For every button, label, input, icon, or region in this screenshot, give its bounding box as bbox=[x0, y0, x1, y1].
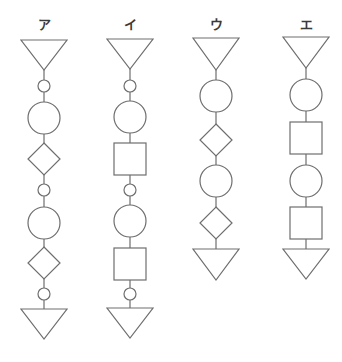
diamond-shape bbox=[28, 143, 60, 175]
small-circle-shape bbox=[38, 288, 50, 300]
square-shape bbox=[114, 143, 146, 175]
triangle-down-shape bbox=[21, 309, 67, 339]
diamond-shape bbox=[200, 207, 232, 239]
flow-diagram-options: ア イ ウ エ bbox=[0, 0, 342, 362]
column-0 bbox=[21, 40, 67, 339]
shape-chains bbox=[0, 0, 342, 362]
large-circle-shape bbox=[290, 165, 322, 197]
column-2 bbox=[193, 38, 239, 280]
square-shape bbox=[290, 122, 322, 154]
small-circle-shape bbox=[124, 80, 136, 92]
large-circle-shape bbox=[28, 102, 60, 134]
triangle-down-shape bbox=[107, 308, 153, 338]
large-circle-shape bbox=[200, 80, 232, 112]
triangle-down-shape bbox=[21, 40, 67, 70]
triangle-down-shape bbox=[283, 249, 329, 279]
small-circle-shape bbox=[124, 184, 136, 196]
diamond-shape bbox=[200, 124, 232, 156]
triangle-down-shape bbox=[283, 37, 329, 68]
triangle-down-shape bbox=[193, 38, 239, 70]
triangle-down-shape bbox=[193, 249, 239, 280]
option-label-e: エ bbox=[291, 17, 321, 33]
small-circle-shape bbox=[124, 288, 136, 300]
small-circle-shape bbox=[38, 80, 50, 92]
large-circle-shape bbox=[114, 205, 146, 237]
large-circle-shape bbox=[200, 165, 232, 197]
small-circle-shape bbox=[38, 184, 50, 196]
option-label-u: ウ bbox=[201, 17, 231, 33]
option-label-i: イ bbox=[115, 17, 145, 33]
large-circle-shape bbox=[290, 79, 322, 111]
diamond-shape bbox=[28, 247, 60, 279]
column-3 bbox=[283, 37, 329, 279]
column-1 bbox=[107, 39, 153, 338]
square-shape bbox=[290, 207, 322, 239]
large-circle-shape bbox=[114, 101, 146, 133]
square-shape bbox=[114, 248, 146, 280]
large-circle-shape bbox=[28, 207, 60, 239]
option-label-a: ア bbox=[29, 17, 59, 33]
triangle-down-shape bbox=[107, 39, 153, 69]
